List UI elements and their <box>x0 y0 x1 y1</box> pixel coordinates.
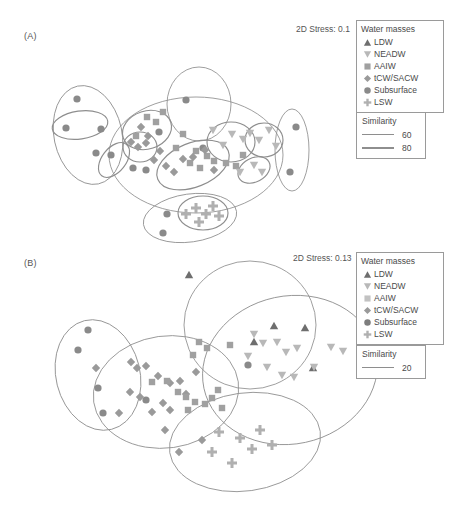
data-point-circle <box>292 123 299 130</box>
similarity-line-thin <box>362 129 398 141</box>
similarity-contour-60 <box>167 67 231 141</box>
data-point-circle <box>94 384 101 391</box>
data-point-square <box>233 163 239 169</box>
similarity-row-20: 20 <box>362 361 420 374</box>
data-point-diamond <box>166 406 174 414</box>
similarity-line-thin-b <box>362 362 398 374</box>
diamond-icon <box>361 72 374 84</box>
data-point-circle <box>73 95 80 102</box>
data-point-diamond <box>192 368 200 376</box>
data-point-triangle-down <box>282 349 290 357</box>
data-point-diamond <box>210 166 218 174</box>
legend-item-neadw: NEADW <box>361 48 438 60</box>
data-point-square <box>197 165 203 171</box>
similarity-legend-title-b: Similarity <box>362 349 420 359</box>
data-point-square <box>219 405 225 411</box>
data-point-circle <box>107 151 114 158</box>
data-point-cross <box>191 203 201 213</box>
similarity-value-60: 60 <box>402 130 411 140</box>
series-lsw <box>207 425 277 468</box>
similarity-legend-b: Similarity 20 <box>356 345 426 379</box>
data-point-triangle-down <box>290 374 298 382</box>
data-point-square <box>144 114 150 120</box>
legend-item-aaiw-b: AAIW <box>361 292 438 304</box>
data-point-cross <box>214 427 224 437</box>
data-point-triangle-down <box>219 142 227 150</box>
similarity-row-80: 80 <box>362 141 420 154</box>
nmds-figure: (A) 2D Stress: 0.1 Water masses LDW NEAD… <box>0 0 452 512</box>
data-point-cross <box>267 440 277 450</box>
data-point-circle <box>62 124 69 131</box>
legend-label-aaiw-b: AAIW <box>374 292 396 304</box>
similarity-legend-title: Similarity <box>362 116 420 126</box>
similarity-value-20: 20 <box>402 363 411 373</box>
data-point-cross <box>235 433 245 443</box>
legend-label-tcw-sacw-b: tCW/SACW <box>374 304 418 316</box>
data-point-diamond <box>159 399 167 407</box>
data-point-cross <box>247 444 257 454</box>
data-point-square <box>193 148 199 154</box>
legend-item-tcw-sacw: tCW/SACW <box>361 72 438 84</box>
data-point-triangle-up <box>250 338 258 346</box>
data-point-circle <box>155 128 162 135</box>
data-point-triangle-down <box>263 364 271 372</box>
data-point-square <box>215 387 221 393</box>
data-point-cross <box>181 209 191 219</box>
similarity-contour-20 <box>163 383 327 501</box>
water-masses-legend-b: Water masses LDW NEADW AAIW <box>356 252 444 345</box>
legend-label-aaiw: AAIW <box>374 60 396 72</box>
data-point-triangle-down <box>250 162 258 170</box>
data-point-triangle-up <box>270 322 278 330</box>
series-lsw <box>181 201 224 227</box>
data-point-diamond <box>179 155 187 163</box>
legend-label-neadw: NEADW <box>374 48 406 60</box>
circle-icon <box>361 316 374 328</box>
data-point-diamond <box>162 162 170 170</box>
data-point-diamond <box>137 123 145 131</box>
triangle-up-icon <box>361 268 374 280</box>
square-icon <box>361 292 374 304</box>
data-point-circle <box>92 149 99 156</box>
data-point-square <box>190 352 196 358</box>
cross-icon <box>361 328 374 340</box>
data-point-circle <box>163 210 170 217</box>
data-point-square <box>160 109 166 115</box>
data-point-diamond <box>176 377 184 385</box>
series-ldw <box>185 271 317 372</box>
data-point-triangle-down <box>244 353 252 361</box>
panel-a: (A) 2D Stress: 0.1 Water masses LDW NEAD… <box>0 0 452 250</box>
data-point-triangle-down <box>339 348 347 356</box>
data-point-diamond <box>170 168 178 176</box>
data-point-diamond <box>127 358 135 366</box>
data-point-diamond <box>148 408 156 416</box>
data-point-diamond <box>126 388 134 396</box>
legend-item-lsw: LSW <box>361 96 438 108</box>
data-point-square <box>209 395 215 401</box>
legend-item-subsurface: Subsurface <box>361 84 438 96</box>
data-point-square <box>175 389 181 395</box>
triangle-down-icon <box>361 48 374 60</box>
similarity-contour-20 <box>184 261 316 389</box>
square-icon <box>361 60 374 72</box>
data-point-circle <box>159 229 166 236</box>
legend-item-lsw-b: LSW <box>361 328 438 340</box>
data-point-square <box>173 145 179 151</box>
similarity-value-80: 80 <box>402 143 411 153</box>
legend-item-tcw-sacw-b: tCW/SACW <box>361 304 438 316</box>
data-point-triangle-down <box>278 372 286 380</box>
panel-b: (B) 2D Stress: 0.13 Water masses LDW NEA… <box>0 250 452 512</box>
data-point-circle <box>142 166 149 173</box>
data-point-circle <box>74 346 81 353</box>
data-point-circle <box>129 164 136 171</box>
legend-label-subsurface: Subsurface <box>374 84 417 96</box>
similarity-contour-60 <box>140 188 240 249</box>
data-point-cross <box>208 201 218 211</box>
water-masses-legend-a: Water masses LDW NEADW AAIW <box>356 20 444 113</box>
data-point-circle <box>182 96 189 103</box>
data-point-square <box>133 133 139 139</box>
similarity-contour-20 <box>86 326 246 457</box>
similarity-contour-80 <box>50 107 109 143</box>
data-point-triangle-down <box>239 136 247 144</box>
data-point-square <box>185 407 191 413</box>
data-point-circle <box>286 168 293 175</box>
